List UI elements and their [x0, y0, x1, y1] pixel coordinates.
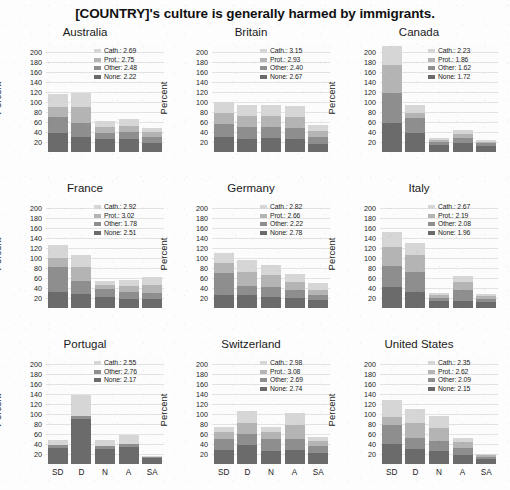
bar-segment-none	[71, 294, 91, 308]
bar-sd	[214, 102, 234, 152]
legend-label: Prot.: 2.66	[270, 212, 300, 221]
y-axis-title: Percent	[326, 238, 337, 271]
y-tick-label: 60	[340, 431, 376, 438]
panel-title: Germany	[166, 182, 336, 194]
bar-segment-cath	[95, 440, 115, 446]
legend-label: Prot.: 2.62	[438, 368, 468, 377]
y-tick-label: 100	[172, 99, 208, 106]
y-tick-label: 160	[6, 381, 42, 388]
legend-label: Other: 2.69	[270, 376, 303, 385]
bar-d	[237, 105, 257, 152]
x-tick-label: SD	[386, 468, 397, 477]
legend-swatch-icon	[260, 75, 267, 79]
bar-segment-other	[142, 457, 162, 458]
legend-item: Prot.: 2.62	[428, 368, 471, 377]
panel-canada: CanadaPercent20406080100120140160180200C…	[334, 26, 504, 178]
legend-label: Cath.: 2.92	[104, 203, 136, 212]
bar-segment-prot	[308, 441, 328, 446]
legend-label: Other: 2.76	[104, 368, 137, 377]
y-tick-label: 180	[6, 215, 42, 222]
x-tick-label: A	[126, 468, 131, 477]
bar-segment-none	[405, 449, 425, 464]
y-tick-label: 80	[172, 265, 208, 272]
y-tick-label: 60	[6, 275, 42, 282]
bar-segment-none	[71, 137, 91, 152]
legend-item: Other: 1.62	[428, 64, 471, 73]
bar-a	[453, 130, 473, 152]
legend: Cath.: 2.67Prot.: 2.19Other: 2.08None: 1…	[428, 203, 471, 237]
y-tick-label: 200	[340, 49, 376, 56]
legend-label: None: 2.67	[270, 73, 302, 82]
bar-segment-prot	[308, 290, 328, 295]
legend-swatch-icon	[428, 378, 435, 382]
bar-segment-cath	[71, 255, 91, 268]
panel-britain: BritainPercent20406080100120140160180200…	[166, 26, 336, 178]
bar-segment-other	[308, 446, 328, 453]
bar-segment-none	[476, 302, 496, 308]
bar-segment-cath	[261, 265, 281, 275]
bar-segment-other	[214, 124, 234, 137]
bar-segment-prot	[214, 113, 234, 124]
legend-label: None: 2.51	[104, 229, 136, 238]
bar-segment-other	[95, 133, 115, 139]
legend-swatch-icon	[428, 49, 435, 53]
y-tick-label: 160	[172, 69, 208, 76]
bar-segment-cath	[48, 440, 68, 445]
y-tick-label: 100	[340, 411, 376, 418]
bar-segment-none	[453, 455, 473, 464]
bar-segment-cath	[308, 437, 328, 441]
legend-swatch-icon	[260, 231, 267, 235]
legend-swatch-icon	[428, 214, 435, 218]
y-tick-label: 100	[172, 255, 208, 262]
y-tick-label: 200	[340, 205, 376, 212]
legend-swatch-icon	[94, 378, 101, 382]
bar-segment-none	[285, 139, 305, 152]
legend-swatch-icon	[260, 58, 267, 62]
legend-label: Cath.: 2.55	[104, 359, 136, 368]
x-tick-label: D	[78, 468, 84, 477]
legend-item: None: 2.15	[428, 385, 471, 394]
bar-segment-none	[429, 301, 449, 308]
bar-sa	[142, 277, 162, 308]
legend-label: Other: 2.48	[104, 64, 137, 73]
bar-segment-cath	[71, 395, 91, 417]
bar-segment-other	[214, 439, 234, 450]
bar-d	[405, 105, 425, 152]
bar-segment-none	[429, 145, 449, 152]
bar-segment-none	[119, 299, 139, 308]
bar-sd	[214, 253, 234, 308]
bar-segment-none	[308, 144, 328, 152]
bar-segment-prot	[237, 116, 257, 127]
legend-label: Other: 2.40	[270, 64, 303, 73]
bar-segment-other	[261, 439, 281, 451]
legend-label: Other: 1.78	[104, 220, 137, 229]
legend-swatch-icon	[260, 361, 267, 365]
y-tick-label: 180	[172, 215, 208, 222]
legend-item: Prot.: 2.75	[94, 56, 137, 65]
legend-label: None: 2.17	[104, 376, 136, 385]
legend-item: Cath.: 2.67	[428, 203, 471, 212]
y-tick-label: 120	[340, 401, 376, 408]
bar-segment-none	[237, 445, 257, 464]
bar-segment-cath	[382, 400, 402, 417]
bar-segment-none	[382, 123, 402, 152]
panel-title: United States	[334, 338, 504, 350]
y-tick-label: 180	[172, 59, 208, 66]
legend-item: Prot.: 2.66	[260, 212, 303, 221]
y-tick-label: 180	[340, 59, 376, 66]
x-tick-label: N	[102, 468, 108, 477]
bar-segment-none	[261, 297, 281, 308]
y-tick-label: 20	[172, 295, 208, 302]
legend-swatch-icon	[428, 222, 435, 226]
panel-title: Portugal	[0, 338, 170, 350]
y-tick-label: 140	[6, 391, 42, 398]
bar-segment-other	[382, 425, 402, 444]
bar-segment-prot	[382, 417, 402, 425]
y-tick-label: 120	[172, 401, 208, 408]
legend-item: None: 2.78	[260, 229, 303, 238]
y-axis-title: Percent	[158, 394, 169, 427]
legend: Cath.: 2.23Prot.: 1.86Other: 1.62None: 1…	[428, 47, 471, 81]
bar-segment-other	[285, 290, 305, 298]
legend-label: None: 2.78	[270, 229, 302, 238]
legend-label: None: 1.72	[438, 73, 470, 82]
